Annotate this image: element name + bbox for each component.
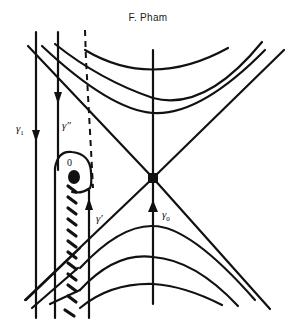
lower-hyperbola-2: [80, 256, 238, 306]
arrow-down-gamma1: [32, 130, 40, 142]
label-origin: 0: [67, 157, 72, 168]
lower-hyperbola-3: [80, 284, 222, 308]
saddle-point: [148, 173, 158, 183]
saddle-point-diagram: γ1 γ″ γ′ γ0 0: [0, 0, 296, 328]
label-gamma-prime: γ′: [96, 212, 103, 224]
label-gamma-double-prime: γ″: [62, 119, 71, 131]
origin-singularity: [68, 170, 80, 184]
arrow-down-gamma-double-prime: [54, 92, 62, 104]
label-gamma0: γ0: [162, 208, 170, 223]
arrow-up-gamma-prime: [85, 198, 93, 210]
branch-cut: [65, 186, 76, 316]
arrow-up-gamma0: [148, 200, 158, 212]
upper-hyperbola-1: [85, 48, 228, 70]
label-gamma1: γ1: [16, 122, 24, 137]
